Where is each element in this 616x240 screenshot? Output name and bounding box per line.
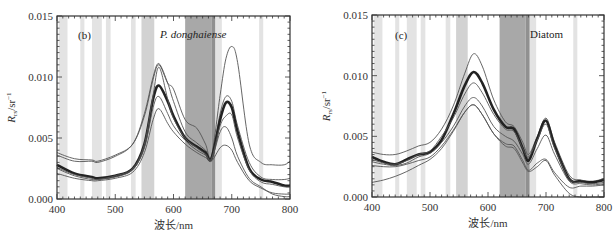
shaded-band [374, 15, 383, 197]
shaded-band [259, 16, 263, 199]
y-tick-label: 0.005 [343, 130, 368, 142]
shaded-band [573, 15, 577, 197]
y-tick-label: 0.000 [28, 193, 53, 205]
y-tick-label: 0.015 [28, 10, 53, 22]
shaded-band [500, 15, 526, 197]
y-tick-label: 0.010 [343, 70, 368, 82]
panel-title: P. donghaiense [159, 28, 227, 40]
panel-b: 4005006007008000.0000.0050.0100.015 (b) … [5, 10, 299, 231]
y-tick-label: 0.015 [343, 9, 368, 21]
y-axis-title: Rrs/sr−1 [5, 92, 19, 124]
x-tick-label: 500 [107, 203, 124, 215]
x-tick-label: 600 [165, 203, 182, 215]
x-tick-label: 600 [480, 201, 497, 213]
y-axis-title: Rrs/sr−1 [320, 90, 334, 122]
x-tick-label: 500 [422, 201, 439, 213]
shaded-band [446, 15, 451, 197]
shaded-band [421, 15, 426, 197]
panel-c: 4005006007008000.0000.0050.0100.015 (c) … [320, 9, 613, 229]
x-tick-label: 700 [538, 201, 555, 213]
panel-label: (c) [395, 29, 408, 42]
panel-title: Diatom [530, 28, 563, 40]
panel-label: (b) [78, 29, 91, 42]
shaded-band [395, 15, 399, 197]
shaded-band [185, 16, 211, 199]
shaded-band [92, 16, 102, 199]
axes: 4005006007008000.0000.0050.0100.015 [28, 10, 299, 215]
y-tick-label: 0.005 [28, 132, 53, 144]
shaded-band [407, 15, 417, 197]
shaded-band [211, 16, 215, 199]
shaded-band [80, 16, 84, 199]
y-tick-label: 0.010 [28, 71, 53, 83]
y-tick-label: 0.000 [343, 191, 368, 203]
x-axis-title: 波长/nm [468, 217, 508, 229]
x-tick-label: 800 [282, 203, 299, 215]
x-tick-label: 700 [224, 203, 241, 215]
shaded-band [106, 16, 111, 199]
spectra-chart: 4005006007008000.0000.0050.0100.015 (b) … [0, 0, 616, 240]
x-tick-label: 800 [596, 201, 613, 213]
x-axis-title: 波长/nm [154, 219, 194, 231]
figure: 4005006007008000.0000.0050.0100.015 (b) … [0, 0, 616, 240]
